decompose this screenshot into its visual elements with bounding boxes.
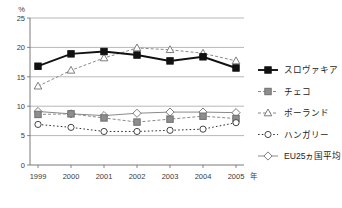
x-axis-tick-label: 2003 <box>162 172 179 181</box>
data-point-marker <box>68 51 74 57</box>
chart-canvas: 0510152025%1999200020012002200320042005年… <box>0 0 342 208</box>
gridlines: 0510152025 <box>17 14 244 170</box>
y-axis-tick-label: 10 <box>17 102 25 111</box>
legend-item-2[interactable]: ポーランド <box>258 108 329 118</box>
data-point-marker <box>200 126 206 132</box>
filled-square-marker-icon <box>200 54 206 60</box>
x-axis-tick-label: 2000 <box>63 172 80 181</box>
x-axis-tick-label: 2001 <box>96 172 113 181</box>
legend-item-4[interactable]: EU25ヵ国平均 <box>258 150 342 161</box>
data-point-marker <box>134 119 140 125</box>
data-point-marker <box>264 109 272 116</box>
filled-square-marker-icon <box>233 65 239 71</box>
data-point-marker <box>101 115 107 121</box>
filled-square-marker-icon <box>265 67 271 73</box>
x-axis-tick-label: 1999 <box>30 172 47 181</box>
open-circle-marker-icon <box>101 128 107 134</box>
filled-gray-square-marker-icon <box>200 113 206 119</box>
filled-square-marker-icon <box>35 63 41 69</box>
filled-square-marker-icon <box>101 48 107 54</box>
data-point-marker <box>200 113 206 119</box>
data-point-marker <box>133 109 141 117</box>
legend-label: チェコ <box>284 87 311 97</box>
y-axis-tick-label: 25 <box>17 14 25 23</box>
open-circle-marker-icon <box>265 131 271 137</box>
open-circle-marker-icon <box>167 127 173 133</box>
data-point-marker <box>265 67 271 73</box>
filled-gray-square-marker-icon <box>265 88 271 94</box>
series-2 <box>34 44 240 89</box>
data-point-marker <box>134 52 140 58</box>
legend-item-3[interactable]: ハンガリー <box>258 130 329 140</box>
open-triangle-marker-icon <box>67 66 75 73</box>
open-circle-marker-icon <box>35 121 41 127</box>
legend-label: ハンガリー <box>284 130 329 140</box>
open-triangle-marker-icon <box>34 82 42 89</box>
data-point-marker <box>232 57 240 64</box>
x-axis-tick-label: 2005 <box>228 172 245 181</box>
open-diamond-marker-icon <box>166 108 174 116</box>
x-axis-unit-label: 年 <box>250 171 258 181</box>
y-axis-tick-label: 0 <box>21 161 25 170</box>
filled-square-marker-icon <box>68 51 74 57</box>
data-point-marker <box>35 121 41 127</box>
y-axis-unit-label: % <box>18 5 25 14</box>
x-axis-tick-label: 2004 <box>195 172 212 181</box>
open-circle-marker-icon <box>134 128 140 134</box>
data-point-marker <box>68 111 74 117</box>
filled-gray-square-marker-icon <box>68 111 74 117</box>
legend-item-0[interactable]: スロヴァキア <box>258 64 338 75</box>
filled-square-marker-icon <box>134 52 140 58</box>
filled-gray-square-marker-icon <box>134 119 140 125</box>
data-point-marker <box>264 152 272 160</box>
data-point-marker <box>167 58 173 64</box>
filled-square-marker-icon <box>167 58 173 64</box>
open-circle-marker-icon <box>68 124 74 130</box>
filled-gray-square-marker-icon <box>35 111 41 117</box>
open-circle-marker-icon <box>233 120 239 126</box>
filled-gray-square-marker-icon <box>167 116 173 122</box>
legend-item-1[interactable]: チェコ <box>258 87 311 97</box>
data-point-marker <box>265 88 271 94</box>
line-chart: 0510152025%1999200020012002200320042005年… <box>0 0 342 208</box>
data-point-marker <box>265 131 271 137</box>
data-point-marker <box>233 65 239 71</box>
data-point-marker <box>68 124 74 130</box>
filled-gray-square-marker-icon <box>101 115 107 121</box>
open-diamond-marker-icon <box>264 152 272 160</box>
data-point-marker <box>134 128 140 134</box>
legend-label: ポーランド <box>284 108 329 118</box>
open-circle-marker-icon <box>200 126 206 132</box>
x-axis: 1999200020012002200320042005年 <box>30 165 258 181</box>
data-point-marker <box>101 48 107 54</box>
x-axis-tick-label: 2002 <box>129 172 146 181</box>
legend-label: EU25ヵ国平均 <box>284 150 342 161</box>
series-0 <box>35 48 239 71</box>
data-point-marker <box>200 54 206 60</box>
y-axis-tick-label: 20 <box>17 43 25 52</box>
data-point-marker <box>233 120 239 126</box>
open-triangle-marker-icon <box>232 57 240 64</box>
y-axis-tick-label: 5 <box>21 131 25 140</box>
open-triangle-marker-icon <box>264 109 272 116</box>
legend: スロヴァキアチェコポーランドハンガリーEU25ヵ国平均 <box>258 64 342 161</box>
data-point-marker <box>34 82 42 89</box>
data-point-marker <box>35 63 41 69</box>
data-point-marker <box>167 127 173 133</box>
data-point-marker <box>67 66 75 73</box>
data-point-marker <box>101 128 107 134</box>
data-point-marker <box>166 108 174 116</box>
open-diamond-marker-icon <box>133 109 141 117</box>
data-point-marker <box>35 111 41 117</box>
legend-label: スロヴァキア <box>284 64 338 75</box>
y-axis-tick-label: 15 <box>17 73 25 82</box>
data-point-marker <box>167 116 173 122</box>
